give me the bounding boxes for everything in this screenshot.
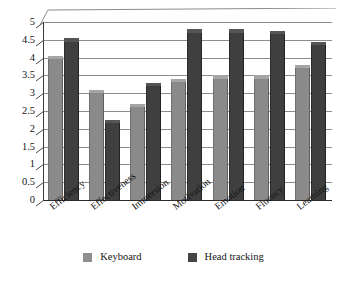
bar-body xyxy=(64,41,79,200)
bar-top-face xyxy=(171,79,186,83)
bar-head-tracking xyxy=(270,31,285,200)
keyboard-swatch-icon xyxy=(83,253,92,262)
bar-body xyxy=(48,59,63,200)
bar-top-face xyxy=(105,120,120,124)
bar-group xyxy=(291,22,332,200)
legend-item-head-tracking: Head tracking xyxy=(188,252,264,263)
y-tick-label: 0 xyxy=(30,195,35,206)
bar-keyboard xyxy=(130,104,145,200)
y-tick-label: 0.5 xyxy=(22,177,35,188)
bar-top-face xyxy=(311,42,326,46)
bars-layer xyxy=(44,22,332,200)
bar-group xyxy=(209,22,250,200)
bar-chart-figure: 00.511.522.533.544.55 EfficiencyEffectiv… xyxy=(0,0,347,287)
bar-keyboard xyxy=(295,65,310,200)
bar-body xyxy=(89,93,104,200)
bar-top-face xyxy=(89,90,104,94)
bar-keyboard xyxy=(48,56,63,200)
bar-head-tracking xyxy=(64,38,79,200)
bar-body xyxy=(254,78,269,200)
bar-top-face xyxy=(146,83,161,87)
y-tick-label: 4.5 xyxy=(22,35,35,46)
legend-label-keyboard: Keyboard xyxy=(100,252,141,263)
bar-head-tracking xyxy=(311,42,326,200)
legend-label-head-tracking: Head tracking xyxy=(205,252,264,263)
y-tick-label: 3 xyxy=(30,88,35,99)
y-tick-label: 1.5 xyxy=(22,141,35,152)
bar-top-face xyxy=(213,75,228,79)
y-tick-label: 2 xyxy=(30,124,35,135)
bar-body xyxy=(187,32,202,200)
y-tick-label: 1 xyxy=(30,159,35,170)
y-tick-label: 3.5 xyxy=(22,70,35,81)
y-tick-label: 2.5 xyxy=(22,106,35,117)
bar-top-face xyxy=(229,29,244,33)
bar-group xyxy=(44,22,85,200)
bar-group xyxy=(167,22,208,200)
bar-body xyxy=(229,32,244,200)
bar-top-face xyxy=(130,104,145,108)
legend-item-keyboard: Keyboard xyxy=(83,252,141,263)
x-axis-labels: EfficiencyEffectivenessImmersionMotivati… xyxy=(44,202,332,250)
bar-body xyxy=(130,107,145,200)
bar-body xyxy=(213,78,228,200)
plot-area: 00.511.522.533.544.55 xyxy=(44,22,332,200)
bar-body xyxy=(171,82,186,200)
bar-head-tracking xyxy=(187,29,202,200)
y-tick-label: 5 xyxy=(30,17,35,28)
bar-keyboard xyxy=(89,90,104,200)
bar-group xyxy=(250,22,291,200)
bar-head-tracking xyxy=(229,29,244,200)
chart-legend: Keyboard Head tracking xyxy=(0,252,347,263)
bar-top-face xyxy=(295,65,310,69)
bar-top-face xyxy=(187,29,202,33)
bar-top-face xyxy=(254,75,269,79)
bar-body xyxy=(311,45,326,200)
bar-top-face xyxy=(48,56,63,60)
bar-keyboard xyxy=(213,75,228,200)
bar-keyboard xyxy=(171,79,186,200)
bar-top-face xyxy=(270,31,285,35)
bar-body xyxy=(270,34,285,200)
bar-body xyxy=(295,68,310,200)
y-tick-label: 4 xyxy=(30,52,35,63)
bar-group xyxy=(85,22,126,200)
bar-top-face xyxy=(64,38,79,42)
head-tracking-swatch-icon xyxy=(188,253,197,262)
bar-keyboard xyxy=(254,75,269,200)
